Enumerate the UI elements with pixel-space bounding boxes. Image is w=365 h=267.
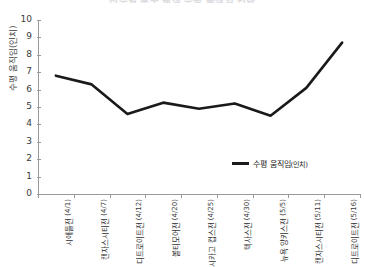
y-axis-tick-label: 9: [26, 31, 32, 41]
x-axis-category-label: 캔자스시티전(5/11): [311, 199, 325, 265]
x-axis-category-date: (4/7): [100, 199, 108, 216]
plot-area: 012345678910: [38, 20, 360, 194]
x-axis-category-label: 디트로이트전(4/12): [132, 199, 146, 265]
x-axis-tick: [110, 194, 111, 198]
x-axis-category-name: 디트로이트전: [349, 222, 360, 264]
y-axis-tick-label: 8: [26, 49, 32, 59]
x-axis-tick: [217, 194, 218, 198]
y-axis-tick-label: 3: [26, 136, 32, 146]
chart-title: 선수별 투구 궤적 수평 움직임 변화: [0, 0, 365, 3]
y-axis-tick-label: 5: [26, 101, 32, 111]
x-axis-category-label: 캔자스시티전(4/7): [97, 199, 111, 265]
x-axis-category-label: 텍사스전(4/30): [240, 199, 254, 265]
x-axis-category-label: 디트로이트전(5/16): [347, 199, 361, 265]
x-axis-line: [38, 194, 360, 195]
legend-label-unit: (인치): [291, 161, 308, 169]
x-axis-category-name: 캔자스시티전: [98, 218, 109, 260]
x-axis-category-name: 텍사스전: [241, 222, 252, 250]
series-line: [56, 43, 342, 116]
legend-line-swatch: [232, 162, 249, 165]
x-axis-category-date: (5/16): [350, 199, 358, 220]
x-axis-tick: [145, 194, 146, 198]
x-axis-category-label: 볼티모어전(4/20): [168, 199, 182, 265]
y-axis-tick-label: 0: [26, 188, 32, 198]
x-axis-category-name: 뉴욕 양키스전: [277, 218, 288, 262]
y-axis-tick-label: 7: [26, 66, 32, 76]
x-axis-category-date: (4/12): [135, 199, 143, 220]
x-axis-tick: [181, 194, 182, 198]
x-axis-category-label: 시애틀전(4/1): [61, 199, 75, 265]
x-axis-category-label: 뉴욕 양키스전(5/5): [276, 199, 290, 265]
x-axis-tick: [38, 194, 39, 198]
x-axis-tick: [324, 194, 325, 198]
x-axis-tick: [360, 194, 361, 198]
legend-label-base: 수평 움직임: [253, 160, 291, 169]
x-axis-category-name: 디트로이트전: [134, 222, 145, 264]
chart-legend: 수평 움직임(인치): [232, 158, 308, 169]
x-axis-category-date: (4/1): [64, 199, 72, 216]
x-axis-category-date: (5/11): [314, 199, 322, 220]
x-axis-category-date: (4/25): [207, 199, 215, 220]
x-axis-tick: [74, 194, 75, 198]
y-axis-tick-label: 4: [26, 118, 32, 128]
x-axis-category-name: 시카고 컵스전: [206, 222, 217, 266]
series-line-group: [38, 20, 360, 194]
x-axis-category-date: (5/5): [279, 199, 287, 216]
x-axis-category-label: 시카고 컵스전(4/25): [204, 199, 218, 265]
x-axis-category-date: (4/30): [243, 199, 251, 220]
y-axis-title: 수평 움직임(인치): [6, 3, 18, 113]
x-axis-tick: [253, 194, 254, 198]
y-axis-tick-label: 2: [26, 153, 32, 163]
y-axis-tick-label: 10: [21, 14, 32, 24]
y-axis-tick-label: 6: [26, 84, 32, 94]
x-axis-labels: 시애틀전(4/1)캔자스시티전(4/7)디트로이트전(4/12)볼티모어전(4/…: [38, 199, 360, 266]
y-axis-tick-label: 1: [26, 171, 32, 181]
x-axis-category-date: (4/20): [171, 199, 179, 220]
x-axis-category-name: 시애틀전: [62, 218, 73, 246]
x-axis-tick: [288, 194, 289, 198]
x-axis-category-name: 볼티모어전: [170, 222, 181, 257]
legend-label: 수평 움직임(인치): [253, 158, 308, 169]
x-axis-category-name: 캔자스시티전: [313, 222, 324, 264]
